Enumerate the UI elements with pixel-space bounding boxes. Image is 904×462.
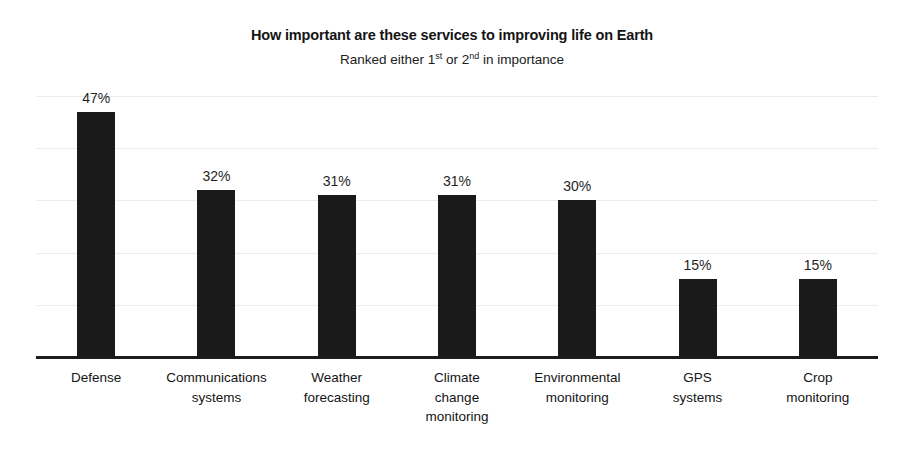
category-label-line: Climate bbox=[390, 368, 524, 388]
category-label-line: Crop bbox=[751, 368, 885, 388]
category-label-line: monitoring bbox=[510, 388, 644, 408]
chart-title: How important are these services to impr… bbox=[0, 26, 904, 44]
category-label-line: Environmental bbox=[510, 368, 644, 388]
category-label: GPSsystems bbox=[631, 368, 765, 407]
bar-value-label: 32% bbox=[202, 168, 230, 184]
bar-group: 31% bbox=[277, 96, 397, 357]
bar-value-label: 15% bbox=[804, 257, 832, 273]
chart-subtitle-part-1: Ranked either 1 bbox=[340, 52, 435, 67]
category-label-line: forecasting bbox=[270, 388, 404, 408]
category-label-line: Communications bbox=[149, 368, 283, 388]
bar-value-label: 30% bbox=[563, 178, 591, 194]
category-label: Defense bbox=[29, 368, 163, 388]
bar-chart: How important are these services to impr… bbox=[0, 0, 904, 462]
category-label-line: Defense bbox=[29, 368, 163, 388]
bar-group: 30% bbox=[517, 96, 637, 357]
bar-value-label: 15% bbox=[684, 257, 712, 273]
category-label-line: systems bbox=[149, 388, 283, 408]
bar-value-label: 31% bbox=[443, 173, 471, 189]
bar-group: 15% bbox=[637, 96, 757, 357]
chart-subtitle-ordinal-second: nd bbox=[469, 51, 479, 61]
bar[interactable] bbox=[77, 112, 115, 357]
bars-layer: 47%32%31%31%30%15%15% bbox=[36, 96, 878, 357]
bar[interactable] bbox=[318, 195, 356, 357]
bar[interactable] bbox=[799, 279, 837, 357]
bar-group: 47% bbox=[36, 96, 156, 357]
category-label: Environmentalmonitoring bbox=[510, 368, 644, 407]
bar-group: 31% bbox=[397, 96, 517, 357]
chart-subtitle: Ranked either 1st or 2nd in importance bbox=[0, 51, 904, 68]
category-label-line: monitoring bbox=[390, 407, 524, 427]
bar-value-label: 47% bbox=[82, 90, 110, 106]
chart-header: How important are these services to impr… bbox=[0, 26, 904, 68]
category-label: Weatherforecasting bbox=[270, 368, 404, 407]
category-label-line: Weather bbox=[270, 368, 404, 388]
bar[interactable] bbox=[197, 190, 235, 357]
bar-group: 15% bbox=[758, 96, 878, 357]
category-label-line: change bbox=[390, 388, 524, 408]
category-label-line: GPS bbox=[631, 368, 765, 388]
bar-value-label: 31% bbox=[323, 173, 351, 189]
category-label-line: systems bbox=[631, 388, 765, 408]
category-label: Climatechangemonitoring bbox=[390, 368, 524, 427]
bar[interactable] bbox=[438, 195, 476, 357]
category-label: Cropmonitoring bbox=[751, 368, 885, 407]
chart-subtitle-part-2: or 2 bbox=[442, 52, 469, 67]
bar[interactable] bbox=[558, 200, 596, 357]
category-label: Communicationssystems bbox=[149, 368, 283, 407]
bar[interactable] bbox=[679, 279, 717, 357]
bar-group: 32% bbox=[156, 96, 276, 357]
category-labels-layer: DefenseCommunicationssystemsWeatherforec… bbox=[36, 368, 878, 448]
chart-subtitle-part-3: in importance bbox=[479, 52, 564, 67]
category-label-line: monitoring bbox=[751, 388, 885, 408]
x-axis-line bbox=[36, 356, 878, 359]
